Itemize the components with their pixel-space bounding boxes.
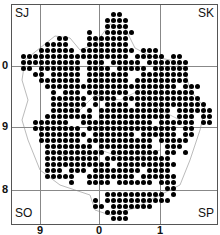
corner-label-sj: SJ [15, 6, 29, 20]
x-tick-9: 9 [37, 224, 43, 235]
x-tick-0: 0 [96, 224, 102, 235]
y-tick-9: 9 [2, 120, 8, 132]
y-tick-8: 8 [2, 183, 8, 195]
corner-label-sk: SK [198, 6, 214, 20]
y-tick-0: 0 [2, 59, 8, 71]
corner-label-sp: SP [198, 206, 214, 220]
map-frame [11, 4, 218, 225]
x-tick-1: 1 [157, 224, 163, 235]
corner-label-so: SO [15, 206, 32, 220]
